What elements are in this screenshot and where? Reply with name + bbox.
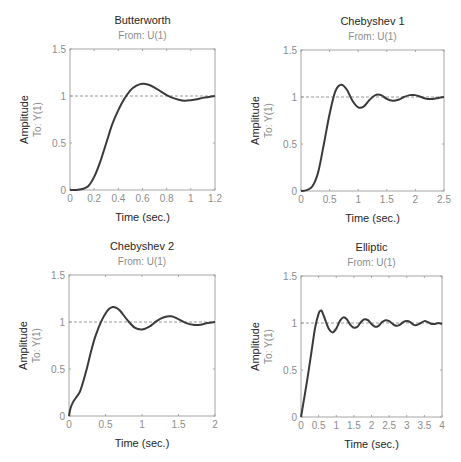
subplot-title: Butterworth [114, 14, 170, 26]
y-tick-label: 1 [291, 318, 297, 329]
x-tick-label: 0.2 [87, 193, 101, 204]
x-tick-label: 1 [139, 419, 145, 430]
y-tick-label: 0.5 [51, 364, 65, 375]
x-tick-label: 2 [212, 419, 218, 430]
subplot-chebyshev-2: 00.511.5200.511.5Chebyshev 2From: U(1)Ti… [17, 240, 218, 449]
x-tick-label: 0 [298, 420, 304, 431]
input-channel-label: From: U(1) [118, 256, 166, 267]
x-tick-label: 0.5 [323, 194, 337, 205]
y-tick-label: 1.5 [283, 271, 297, 282]
x-tick-label: 3.5 [417, 420, 431, 431]
y-tick-label: 0.5 [52, 138, 66, 149]
y-axis-label: Amplitude [17, 321, 29, 370]
x-tick-label: 1 [333, 420, 339, 431]
y-axis-label: Amplitude [249, 322, 261, 371]
input-channel-label: From: U(1) [118, 30, 166, 41]
x-tick-label: 1.5 [172, 419, 186, 430]
x-tick-label: 1.5 [347, 420, 361, 431]
y-tick-label: 1.5 [52, 44, 66, 55]
x-axis-label: Time (sec.) [344, 438, 399, 450]
axes-box [69, 275, 215, 416]
x-tick-label: 0.5 [312, 420, 326, 431]
x-tick-label: 1.5 [380, 194, 394, 205]
x-tick-label: 0 [66, 419, 72, 430]
x-tick-label: 2 [369, 420, 375, 431]
x-axis-label: Time (sec.) [345, 212, 400, 224]
subplot-title: Chebyshev 2 [110, 240, 174, 252]
y-axis-label: Amplitude [249, 96, 261, 145]
x-tick-label: 0.5 [99, 419, 113, 430]
output-channel-label: To: Y(1) [263, 329, 274, 364]
input-channel-label: From: U(1) [347, 257, 395, 268]
y-tick-label: 1 [291, 92, 297, 103]
x-tick-label: 0.8 [160, 193, 174, 204]
output-channel-label: To: Y(1) [32, 102, 43, 137]
y-tick-label: 0 [291, 412, 297, 423]
x-axis-label: Time (sec.) [115, 437, 170, 449]
x-tick-label: 2.5 [437, 194, 451, 205]
y-tick-label: 1.5 [51, 270, 65, 281]
y-tick-label: 1.5 [283, 45, 297, 56]
y-tick-label: 0 [59, 411, 65, 422]
axes-box [301, 276, 442, 417]
axes-box [70, 49, 215, 190]
y-tick-label: 0 [60, 185, 66, 196]
output-channel-label: To: Y(1) [263, 103, 274, 138]
y-tick-label: 0 [291, 186, 297, 197]
subplot-title: Chebyshev 1 [340, 15, 404, 27]
x-axis-label: Time (sec.) [115, 211, 170, 223]
subplot-elliptic: 00.511.522.533.5400.511.5EllipticFrom: U… [249, 241, 445, 450]
y-tick-label: 0.5 [283, 139, 297, 150]
figure: 00.20.40.60.811.200.511.5ButterworthFrom… [0, 0, 461, 462]
subplot-butterworth: 00.20.40.60.811.200.511.5ButterworthFrom… [18, 14, 222, 223]
x-tick-label: 3 [404, 420, 410, 431]
x-tick-label: 2.5 [382, 420, 396, 431]
output-channel-label: To: Y(1) [31, 328, 42, 363]
x-tick-label: 0.6 [136, 193, 150, 204]
x-tick-label: 1 [188, 193, 194, 204]
y-tick-label: 1 [59, 317, 65, 328]
subplot-chebyshev-1: 00.511.522.500.511.5Chebyshev 1From: U(1… [249, 15, 451, 224]
x-tick-label: 0 [67, 193, 73, 204]
input-channel-label: From: U(1) [348, 31, 396, 42]
x-tick-label: 1.2 [208, 193, 222, 204]
x-tick-label: 1 [355, 194, 361, 205]
x-tick-label: 2 [413, 194, 419, 205]
x-tick-label: 0 [298, 194, 304, 205]
y-tick-label: 0.5 [283, 365, 297, 376]
y-tick-label: 1 [60, 91, 66, 102]
x-tick-label: 0.4 [111, 193, 125, 204]
x-tick-label: 4 [439, 420, 445, 431]
subplot-title: Elliptic [356, 241, 388, 253]
y-axis-label: Amplitude [18, 95, 30, 144]
axes-box [301, 50, 444, 191]
